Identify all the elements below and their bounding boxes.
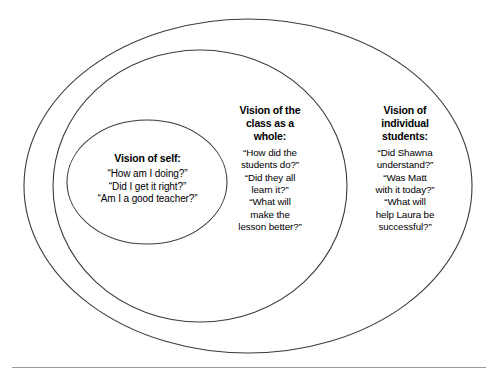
question-line: “Am I a good teacher?” <box>64 193 231 206</box>
vision-of-individual-students-title: Vision of individual students: <box>355 104 455 144</box>
vision-of-individual-students-text-block: Vision of individual students: “Did Shaw… <box>355 104 455 234</box>
question-line: with it today?” <box>355 184 455 196</box>
vision-of-self-text-block: Vision of self: “How am I doing?” “Did I… <box>64 152 231 206</box>
question-line: “Did they all <box>222 172 318 184</box>
question-line: learn it?” <box>222 184 318 196</box>
question-line: “How am I doing?” <box>64 168 231 181</box>
question-line: “How did the <box>222 147 318 159</box>
vision-of-self-title: Vision of self: <box>64 152 231 165</box>
question-line: help Laura be <box>355 209 455 221</box>
vision-of-class-title: Vision of the class as a whole: <box>222 104 318 144</box>
vision-of-self-questions: “How am I doing?” “Did I get it right?” … <box>64 168 231 206</box>
vision-of-class-text-block: Vision of the class as a whole: “How did… <box>222 104 318 234</box>
question-line: students do?” <box>222 159 318 171</box>
question-line: “What will <box>222 196 318 208</box>
question-line: “Did I get it right?” <box>64 181 231 194</box>
question-line: successful?” <box>355 221 455 233</box>
question-line: “Did Shawna <box>355 147 455 159</box>
question-line: “Was Matt <box>355 172 455 184</box>
question-line: understand?” <box>355 159 455 171</box>
question-line: “What will <box>355 196 455 208</box>
vision-of-individual-students-questions: “Did Shawna understand?” “Was Matt with … <box>355 147 455 234</box>
bottom-divider-rule <box>12 367 486 368</box>
question-line: lesson better?” <box>222 221 318 233</box>
diagram-canvas: Vision of self: “How am I doing?” “Did I… <box>0 0 496 381</box>
vision-of-class-questions: “How did the students do?” “Did they all… <box>222 147 318 234</box>
question-line: make the <box>222 209 318 221</box>
